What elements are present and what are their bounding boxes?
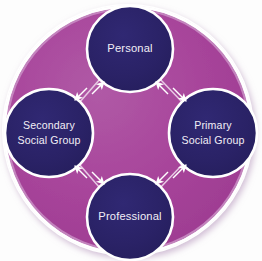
social-group-cycle-diagram: Personal Primary Social Group Profession… (0, 0, 262, 261)
diagram-canvas: Personal Primary Social Group Profession… (0, 0, 262, 261)
grain-overlay (0, 0, 262, 261)
